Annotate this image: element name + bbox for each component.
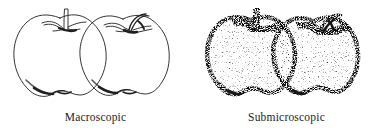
apple-right-bottom-shade-2 <box>99 87 117 93</box>
apple-left-outline <box>14 15 106 97</box>
apple-left-bottom-shade-2 <box>34 88 53 94</box>
apple-comparison-figure: Macroscopic <box>0 0 382 136</box>
apple-left-bottom-shade-3 <box>58 92 71 94</box>
panel-submicroscopic: Submicroscopic <box>191 0 382 136</box>
apple-left-calyx-right <box>68 22 86 27</box>
apple-right-calyx-shade <box>124 30 137 32</box>
submicroscopic-apple-illustration <box>191 0 382 112</box>
apple-left-stem <box>64 9 68 29</box>
apple-left-bottom-shade-1 <box>26 80 50 94</box>
caption-macroscopic: Macroscopic <box>0 110 191 124</box>
apple-right-bottom-shade-3 <box>123 92 136 94</box>
panel-macroscopic: Macroscopic <box>0 0 191 136</box>
apple-left-top-dimple-2 <box>44 24 60 28</box>
macroscopic-apple-illustration <box>0 0 191 112</box>
apple-right-top-dimple-2 <box>106 26 123 30</box>
caption-submicroscopic: Submicroscopic <box>191 110 382 124</box>
